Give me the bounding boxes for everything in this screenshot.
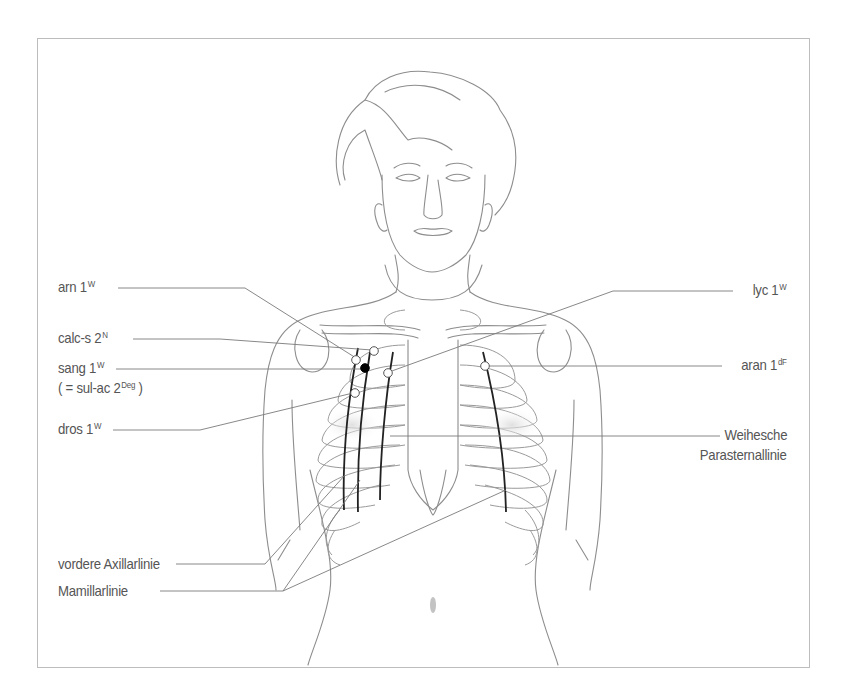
label-mamillarlinie: Mamillarlinie	[58, 582, 128, 600]
label-lyc: lyc 1W	[753, 281, 787, 299]
navel	[430, 597, 436, 613]
label-weihesche: Weihesche	[724, 426, 787, 444]
leader-lines	[113, 288, 733, 591]
point-aran	[481, 362, 490, 371]
point-sang	[361, 364, 370, 373]
label-parasternallinie: Parasternallinie	[700, 446, 787, 464]
point-lyc	[384, 369, 393, 378]
neck-outline	[395, 255, 398, 292]
clavicle-right	[446, 325, 546, 330]
point-calc-s	[370, 347, 379, 356]
point-dros	[351, 389, 360, 398]
label-sul-ac: ( = sul-ac 2Deg )	[58, 379, 143, 397]
label-dros: dros 1W	[58, 420, 101, 438]
label-calc-s: calc-s 2N	[58, 329, 108, 347]
clavicle-left	[320, 325, 420, 330]
torso-outline	[263, 292, 396, 590]
label-arn: arn 1W	[58, 278, 95, 296]
point-arn	[352, 356, 361, 365]
label-sang: sang 1W	[58, 359, 104, 377]
label-aran: aran 1dF	[742, 356, 787, 374]
sternum	[408, 340, 458, 510]
label-vordere-axillarlinie: vordere Axillarlinie	[58, 555, 160, 573]
acupoints	[351, 347, 490, 398]
